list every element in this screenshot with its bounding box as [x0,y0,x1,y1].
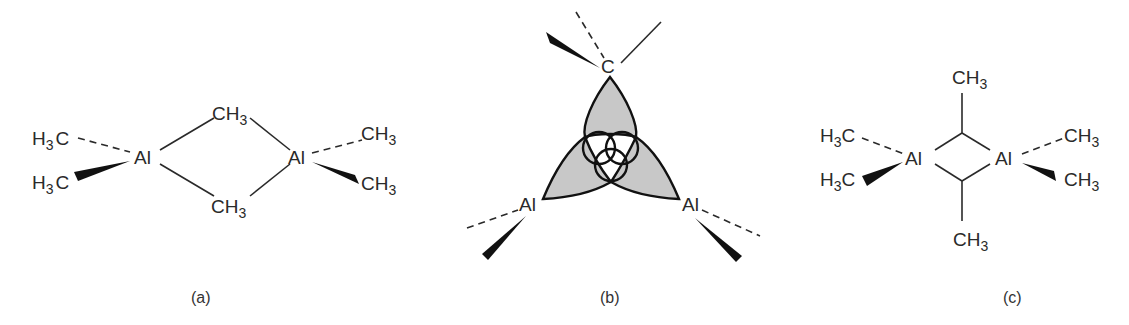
atom-methyl-top: CH3 [952,67,987,92]
bond-dashed-al-left [467,210,518,228]
bond-dashed-right-top [1022,138,1064,154]
bond-carbon-up-right [621,22,661,63]
atom-al-right: Al [288,147,305,168]
bond-al-left-to-bridge-bottom [935,164,962,181]
panel-b: C Al Al (b) [467,12,760,306]
caption-a: (a) [191,289,211,306]
atom-methyl-left-bottom: H3C [32,172,69,197]
atom-carbon: C [601,56,615,77]
atom-methyl-right-top: CH3 [1064,125,1099,150]
atom-methyl-left-bottom: H3C [820,169,855,194]
atom-methyl-left-top: H3C [820,125,855,150]
atom-methyl-bottom: CH3 [953,229,988,254]
atom-methyl-right-bottom: CH3 [1064,169,1099,194]
atom-al-right: Al [682,194,699,215]
bond-wedge-right-bottom [1022,163,1056,181]
atom-bridge-bottom: CH3 [211,196,246,221]
atom-al-left: Al [134,147,151,168]
atom-methyl-left-top: H3C [32,128,69,153]
orbital-lobe-carbon [584,77,636,137]
atom-methyl-right-top: CH3 [361,123,396,148]
orbital-lobe-al-right [611,137,679,199]
orbital-lobe-al-left [543,137,611,199]
bond-al-left-to-bridge-bottom [160,164,214,196]
atom-al-right: Al [995,148,1012,169]
bond-al-left-to-bridge-top [935,133,962,150]
panel-c: Al Al CH3 CH3 H3C H3C CH3 CH3 (c) [820,67,1099,306]
atom-al-left: Al [905,148,922,169]
bond-bridge-bottom-to-al-right [250,164,290,196]
bond-dashed-left-top [78,138,130,152]
bond-bridge-bottom-to-al-right [962,164,990,181]
atom-bridge-top: CH3 [212,103,247,128]
bond-wedge-left-bottom [74,161,130,181]
bond-wedge-left-bottom [862,162,903,186]
bond-al-left-to-bridge-top [160,118,214,150]
bond-wedge-al-left [482,216,526,260]
bond-wedge-right-bottom [312,162,359,184]
bond-dashed-right-top [312,140,362,153]
atom-methyl-right-bottom: CH3 [361,173,396,198]
bond-dashed-left-top [862,138,904,154]
atom-al-left: Al [519,194,536,215]
panel-a: Al Al CH3 CH3 H3C H3C CH3 CH3 (a) [32,103,396,306]
bond-dashed-carbon-up [576,12,604,58]
caption-c: (c) [1003,289,1022,306]
aluminium-dimer-figure: Al Al CH3 CH3 H3C H3C CH3 CH3 (a) [0,0,1129,325]
bond-bridge-top-to-al-right [962,133,990,150]
bond-bridge-top-to-al-right [250,118,290,150]
caption-b: (b) [600,289,620,306]
